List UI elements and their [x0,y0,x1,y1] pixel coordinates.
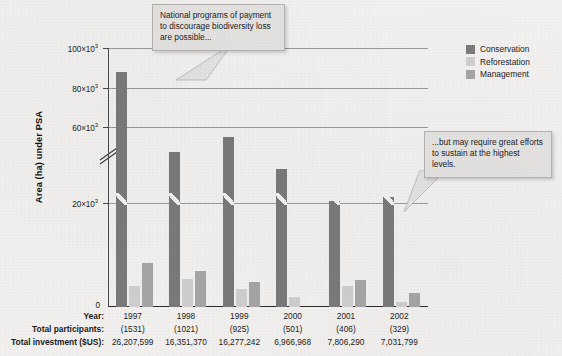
bar-management-2002 [409,293,420,307]
bar-break-mark [223,193,234,205]
bar-management-1999 [249,282,260,307]
bar-reforestation-2000 [289,297,300,307]
table-cell-0-5: 2002 [365,310,433,323]
table-row-investment: Total investment ($US): 26,207,59916,351… [0,336,562,349]
bar-conservation-1999 [223,137,234,308]
bar-break-mark [329,193,340,205]
bar-break-mark [116,193,127,205]
legend-swatch-conservation [466,45,475,54]
bar-management-1997 [142,263,153,307]
bar-conservation-2002 [383,197,394,307]
ytick-label-100k: 100×103 [38,43,98,54]
bar-break-mark [383,193,394,205]
bar-reforestation-1997 [129,286,140,307]
bar-conservation-2000 [276,169,287,307]
row-label-participants: Total participants: [0,323,104,336]
ytick-label-60k: 60×103 [38,122,98,133]
bar-management-1998 [195,271,206,307]
row-label-year: Year: [0,310,104,323]
legend-label-management: Management [480,68,529,81]
legend-swatch-reforestation [466,57,475,66]
table-cell-1-5: (329) [365,323,433,336]
legend-swatch-management [466,70,475,79]
bar-break-mark [276,193,287,205]
bar-reforestation-1998 [182,279,193,307]
data-table: Year: 199719981999200020012002 Total par… [0,310,562,349]
bars-layer [108,48,428,307]
callout-left: National programs of payment to discoura… [152,4,285,51]
callout-right: ...but may require great efforts to sust… [424,131,552,178]
ytick-label-zero: 0 [78,301,100,310]
table-row-year: Year: 199719981999200020012002 [0,310,562,323]
bar-reforestation-2002 [396,302,407,307]
bar-conservation-1997 [116,72,127,307]
row-label-investment: Total investment ($US): [0,336,104,349]
ytick-label-20k: 20×103 [38,198,98,209]
legend-label-conservation: Conservation [480,43,529,56]
bar-management-2001 [355,280,366,307]
bar-conservation-1998 [169,152,180,307]
legend-label-reforestation: Reforestation [480,56,530,69]
ytick-label-80k: 80×103 [38,83,98,94]
bar-reforestation-1999 [236,289,247,307]
table-row-participants: Total participants: (1531)(1021)(925)(50… [0,323,562,336]
legend-item-reforestation: Reforestation [466,56,530,69]
chart-figure: Area (ha) under PSA 100×103 80×103 60×10… [0,0,562,356]
legend-item-management: Management [466,68,530,81]
bar-reforestation-2001 [342,286,353,307]
bar-conservation-2001 [329,201,340,307]
legend: Conservation Reforestation Management [466,43,530,81]
table-cell-2-5: 7,031,799 [365,336,433,349]
legend-item-conservation: Conservation [466,43,530,56]
bar-break-mark [169,193,180,205]
